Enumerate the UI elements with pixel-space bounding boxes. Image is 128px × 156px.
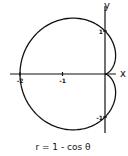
y-tick-label: -1 [96, 114, 103, 121]
x-tick-label: -2 [17, 77, 24, 84]
y-axis-label: y [104, 0, 110, 11]
cardioid-chart: x y -2-11-1 r = 1 - cos θ [0, 0, 128, 156]
x-tick-label: -1 [59, 77, 66, 84]
x-axis-label: x [120, 68, 126, 79]
y-tick-label: 1 [99, 28, 103, 35]
chart-caption: r = 1 - cos θ [35, 142, 91, 152]
